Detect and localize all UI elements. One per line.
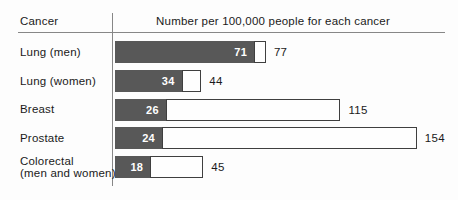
category-label: Colorectal (men and women) — [20, 156, 116, 178]
column-header-cancer: Cancer — [20, 15, 58, 27]
total-value: 154 — [425, 127, 445, 149]
cancer-rates-bar-chart: Cancer Number per 100,000 people for eac… — [0, 0, 458, 200]
filled-bar: 34 — [115, 70, 182, 92]
outline-bar — [150, 156, 203, 178]
total-value: 115 — [348, 99, 367, 121]
filled-bar: 24 — [115, 127, 162, 149]
outline-bar — [254, 41, 266, 63]
filled-bar: 18 — [115, 156, 150, 178]
column-header-values: Number per 100,000 people for each cance… — [112, 15, 434, 27]
header-divider-line — [18, 32, 445, 33]
filled-bar: 26 — [115, 99, 166, 121]
filled-bar: 71 — [115, 41, 254, 63]
filled-bar-value: 34 — [162, 75, 182, 87]
category-label: Breast — [20, 99, 54, 121]
filled-bar-value: 26 — [146, 104, 166, 116]
filled-bar-value: 18 — [130, 161, 150, 173]
total-value: 44 — [209, 70, 222, 92]
filled-bar-value: 71 — [234, 46, 254, 58]
category-label: Lung (women) — [20, 70, 96, 92]
outline-bar — [166, 99, 340, 121]
outline-bar — [182, 70, 202, 92]
filled-bar-value: 24 — [142, 132, 162, 144]
total-value: 45 — [211, 156, 224, 178]
category-label: Prostate — [20, 127, 64, 149]
outline-bar — [162, 127, 417, 149]
total-value: 77 — [274, 41, 287, 63]
category-label: Lung (men) — [20, 41, 81, 63]
